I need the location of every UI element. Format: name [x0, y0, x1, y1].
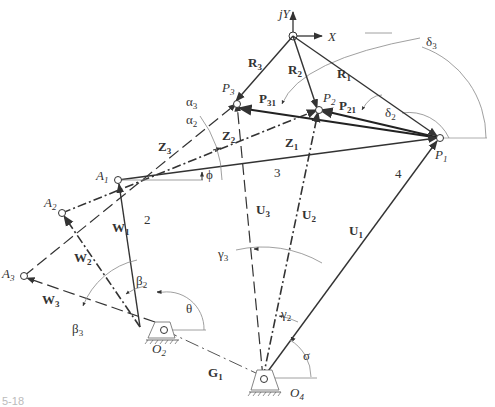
svg-text:R1: R1 — [337, 66, 351, 83]
labels: jY X R3 R2 R1 P31 P21 P3 P2 P1 δ3 δ2 α3 … — [1, 6, 447, 407]
svg-text:P21: P21 — [339, 98, 356, 115]
svg-text:U1: U1 — [349, 223, 363, 240]
figure-caption: 5-18 — [2, 395, 24, 407]
svg-text:A2: A2 — [43, 195, 57, 212]
y-axis-label: jY — [277, 6, 292, 21]
svg-text:Z1: Z1 — [285, 135, 299, 152]
svg-text:3: 3 — [274, 165, 281, 180]
svg-text:δ3: δ3 — [426, 34, 437, 51]
svg-text:α2: α2 — [186, 112, 197, 129]
svg-text:W1: W1 — [112, 220, 130, 237]
svg-text:4: 4 — [395, 166, 402, 181]
svg-text:β3: β3 — [72, 321, 84, 338]
ground-pivot-o4 — [248, 370, 281, 396]
svg-text:Z3: Z3 — [158, 139, 172, 156]
svg-text:Z2: Z2 — [222, 128, 236, 145]
svg-text:R3: R3 — [248, 55, 262, 72]
svg-text:O2: O2 — [152, 341, 166, 358]
svg-text:A1: A1 — [95, 168, 108, 185]
position-vectors — [236, 36, 437, 136]
svg-text:O4: O4 — [290, 385, 304, 402]
svg-text:W3: W3 — [42, 292, 60, 309]
svg-text:2: 2 — [144, 212, 151, 227]
point-p1 — [437, 135, 444, 142]
svg-text:G1: G1 — [208, 365, 223, 382]
svg-text:P3: P3 — [221, 80, 235, 97]
svg-text:P2: P2 — [322, 90, 336, 107]
svg-text:U2: U2 — [302, 207, 316, 224]
origin-axes — [289, 12, 322, 40]
svg-text:θ: θ — [186, 301, 192, 316]
svg-text:α3: α3 — [186, 94, 198, 111]
svg-text:γ2: γ2 — [280, 306, 291, 323]
joint-a1 — [115, 177, 122, 184]
diagram-canvas: jY X R3 R2 R1 P31 P21 P3 P2 P1 δ3 δ2 α3 … — [0, 0, 495, 407]
linkage-diagram: jY X R3 R2 R1 P31 P21 P3 P2 P1 δ3 δ2 α3 … — [0, 0, 495, 407]
point-p3 — [234, 101, 241, 108]
x-axis-label: X — [327, 29, 337, 44]
svg-text:P31: P31 — [259, 91, 276, 108]
point-p2 — [316, 107, 323, 114]
svg-text:β2: β2 — [136, 273, 147, 290]
svg-text:A3: A3 — [1, 266, 15, 283]
svg-text:σ: σ — [303, 348, 310, 363]
svg-text:P1: P1 — [434, 147, 447, 164]
svg-text:U3: U3 — [256, 202, 270, 219]
svg-text:R2: R2 — [288, 62, 302, 79]
output-link-vectors — [237, 104, 437, 378]
svg-text:γ3: γ3 — [217, 246, 229, 263]
svg-text:ϕ: ϕ — [206, 167, 213, 182]
delta-angle-arcs — [282, 33, 487, 138]
joint-a3 — [21, 273, 28, 280]
joint-a2 — [59, 210, 66, 217]
svg-text:δ2: δ2 — [385, 105, 396, 122]
ground-pivot-o2 — [145, 322, 179, 344]
